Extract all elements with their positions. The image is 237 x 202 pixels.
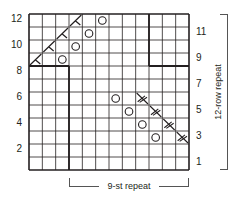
left-decrease-icon: [30, 54, 41, 65]
row-label-8: 8: [6, 66, 22, 76]
row-label-9: 9: [196, 53, 212, 63]
row-label-7: 7: [196, 79, 212, 89]
yarn-over-icon: [72, 43, 80, 51]
knitting-chart-grid: [29, 14, 189, 170]
row-label-3: 3: [196, 131, 212, 141]
row-label-5: 5: [196, 105, 212, 115]
yarn-over-icon: [112, 95, 120, 103]
right-decrease-icon: [150, 106, 161, 117]
row-label-12: 12: [6, 14, 22, 24]
row-repeat-label: 12-row repeat: [212, 47, 224, 137]
yarn-over-icon: [85, 30, 93, 38]
right-decrease-icon: [137, 93, 148, 104]
row-label-4: 4: [6, 118, 22, 128]
right-decrease-icon: [177, 132, 188, 143]
yarn-over-icon: [152, 134, 160, 142]
chart-grid-svg: [29, 14, 189, 170]
row-label-2: 2: [6, 144, 22, 154]
row-label-1: 1: [196, 157, 212, 167]
stitch-repeat-label: 9-st repeat: [99, 181, 159, 192]
row-label-11: 11: [196, 27, 212, 37]
yarn-over-icon: [59, 56, 67, 64]
row-label-10: 10: [6, 40, 22, 50]
yarn-over-icon: [99, 17, 107, 25]
left-decrease-icon: [43, 41, 54, 52]
right-decrease-icon: [163, 119, 174, 130]
row-label-6: 6: [6, 92, 22, 102]
yarn-over-icon: [125, 108, 133, 116]
left-decrease-icon: [70, 15, 81, 26]
left-decrease-icon: [57, 28, 68, 39]
yarn-over-icon: [139, 121, 147, 129]
